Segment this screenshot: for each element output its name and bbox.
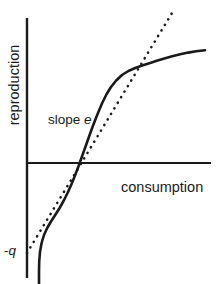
reproduction-consumption-figure: reproduction consumption slope e -q xyxy=(0,0,219,284)
q-intercept-label: -q xyxy=(4,244,16,258)
y-axis-label: reproduction xyxy=(7,45,22,126)
x-axis-label: consumption xyxy=(121,180,203,195)
plot-canvas xyxy=(0,0,219,284)
tangent-line xyxy=(27,13,172,253)
slope-annotation-prefix: slope xyxy=(48,112,84,127)
slope-annotation-symbol: e xyxy=(84,112,92,127)
data-series-group xyxy=(27,13,205,284)
axes-group xyxy=(27,18,211,278)
reproduction-curve xyxy=(39,50,205,284)
q-intercept-symbol: q xyxy=(9,243,17,258)
slope-annotation: slope e xyxy=(48,113,92,127)
